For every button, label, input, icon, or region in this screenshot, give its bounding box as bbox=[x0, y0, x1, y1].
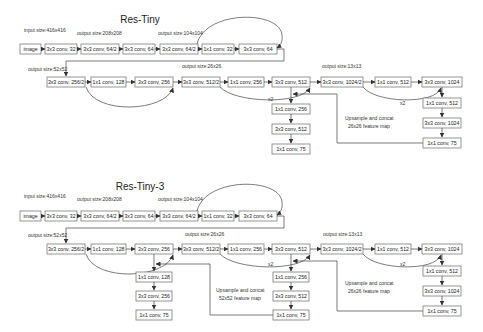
layer-label: 1x1 conv, 75 bbox=[427, 140, 456, 146]
layer-label: 3x3 conv, 64/2 bbox=[83, 46, 116, 52]
layer-label: image bbox=[23, 213, 37, 219]
size-label-52: output size:52x52 bbox=[28, 232, 67, 238]
size-label-104: output size:104x104 bbox=[158, 30, 203, 36]
layer-label: 1x1 conv, 512 bbox=[426, 268, 458, 274]
layer-label: 1x1 conv, 128 bbox=[93, 79, 125, 85]
size-label-52: output size:52x52 bbox=[28, 66, 67, 72]
size-label-104: output size:104x104 bbox=[158, 196, 203, 202]
layer-label: 1x1 conv, 256 bbox=[230, 79, 262, 85]
upsample-label: 26x26 feature map bbox=[348, 288, 390, 294]
layer-label: 3x3 conv, 256 bbox=[138, 293, 170, 299]
size-label-13: output size:13x13 bbox=[322, 63, 361, 69]
layer-label: 1x1 conv, 128 bbox=[138, 274, 170, 280]
layer-label: 1x1 conv, 75 bbox=[276, 312, 305, 318]
layer-label: 3x3 conv, 512/2 bbox=[183, 79, 219, 85]
upsample-label: Upsample and concat bbox=[216, 287, 265, 293]
layer-label: 1x1 conv, 512 bbox=[377, 79, 409, 85]
layer-label: 3x3 conv, 1024 bbox=[425, 246, 460, 252]
layer-label: 3x3 conv, 64/2 bbox=[162, 46, 195, 52]
branch-13: 1x1 conv, 512 3x3 conv, 1024 1x1 conv, 7… bbox=[423, 254, 461, 316]
layer-label: 1x1 conv, 256 bbox=[275, 274, 307, 280]
layer-label: 3x3 conv, 64 bbox=[124, 46, 153, 52]
layer-label: 3x3 conv, 1024/2 bbox=[322, 246, 361, 252]
layer-label: 3x3 conv, 512/2 bbox=[183, 246, 219, 252]
upsample-label: Upsample and concat bbox=[345, 280, 394, 286]
layer-label: 3x3 conv, 64 bbox=[243, 46, 272, 52]
upsample-label: 52x52 feature map bbox=[219, 295, 261, 301]
x2-label: x2 bbox=[268, 96, 274, 102]
layer-label: 3x3 conv, 1024 bbox=[425, 288, 460, 294]
layer-label: 3x3 conv, 256/2 bbox=[48, 79, 84, 85]
layer-label: 3x3 conv, 256 bbox=[138, 79, 170, 85]
branch-26: 1x1 conv, 256 3x3 conv, 512 1x1 conv, 75 bbox=[273, 254, 309, 320]
diagram-title: Res-Tiny bbox=[120, 14, 160, 25]
layer-label: 1x1 conv, 75 bbox=[139, 312, 168, 318]
layer-label: image bbox=[23, 46, 37, 52]
layer-label: 3x3 conv, 32 bbox=[46, 46, 75, 52]
size-label-26: output size:26x26 bbox=[185, 231, 224, 237]
layer-label: 3x3 conv, 1024 bbox=[425, 120, 460, 126]
layer-label: 1x1 conv, 75 bbox=[427, 308, 456, 314]
upsample-label: Upsample and concat bbox=[345, 115, 394, 121]
layer-label: 3x3 conv, 256/2 bbox=[48, 246, 84, 252]
size-label-26: output size:26x26 bbox=[182, 63, 221, 69]
layer-label: 3x3 conv, 512 bbox=[275, 293, 307, 299]
branch-26: 1x1 conv, 256 3x3 conv, 512 1x1 conv, 75 bbox=[272, 87, 310, 154]
layer-label: 1x1 conv, 256 bbox=[275, 106, 307, 112]
diagram-res-tiny-3: Res-Tiny-3 input size:416x416 output siz… bbox=[20, 181, 462, 320]
layer-label: 3x3 conv, 32 bbox=[46, 213, 75, 219]
layer-label: 3x3 conv, 512 bbox=[275, 79, 307, 85]
size-label-208: output size:208x208 bbox=[77, 30, 122, 36]
layer-label: 3x3 conv, 1024/2 bbox=[322, 79, 361, 85]
layer-label: 1x1 conv, 256 bbox=[230, 246, 262, 252]
layer-label: 1x1 conv, 32 bbox=[203, 46, 232, 52]
layer-label: 3x3 conv, 512 bbox=[275, 246, 307, 252]
input-size-label: input size:416x416 bbox=[24, 27, 66, 33]
diagram-title: Res-Tiny-3 bbox=[116, 181, 165, 192]
size-label-208: output size:208x208 bbox=[77, 196, 122, 202]
layer-label: 3x3 conv, 64 bbox=[243, 213, 272, 219]
size-label-13: output size:13x13 bbox=[323, 231, 362, 237]
layer-label: 1x1 conv, 32 bbox=[203, 213, 232, 219]
layer-label: 1x1 conv, 128 bbox=[93, 246, 125, 252]
input-size-label: input size:416x416 bbox=[24, 193, 66, 199]
layer-label: 3x3 conv, 512 bbox=[275, 126, 307, 132]
layer-label: 1x1 conv, 75 bbox=[276, 146, 305, 152]
row2-layers: 3x3 conv, 256/2 1x1 conv, 128 3x3 conv, … bbox=[47, 244, 462, 254]
layer-label: 3x3 conv, 256 bbox=[138, 246, 170, 252]
layer-label: 3x3 conv, 1024 bbox=[425, 79, 460, 85]
upsample-label: 26x26 feature map bbox=[348, 123, 390, 129]
layer-label: 3x3 conv, 64/2 bbox=[162, 213, 195, 219]
x2-label: x2 bbox=[400, 100, 406, 106]
layer-label: 1x1 conv, 512 bbox=[377, 246, 409, 252]
x2-label: x2 bbox=[400, 261, 406, 267]
x2-label: x2 bbox=[268, 261, 274, 267]
diagram-res-tiny: Res-Tiny input size:416x416 output size:… bbox=[20, 14, 462, 154]
branch-13: 1x1 conv, 512 3x3 conv, 1024 1x1 conv, 7… bbox=[423, 87, 461, 148]
layer-label: 3x3 conv, 64/2 bbox=[83, 213, 116, 219]
layer-label: 3x3 conv, 64 bbox=[124, 213, 153, 219]
row2-layers: 3x3 conv, 256/2 1x1 conv, 128 3x3 conv, … bbox=[47, 77, 462, 87]
layer-label: 1x1 conv, 512 bbox=[426, 100, 458, 106]
architecture-diagrams: Res-Tiny input size:416x416 output size:… bbox=[0, 0, 483, 332]
